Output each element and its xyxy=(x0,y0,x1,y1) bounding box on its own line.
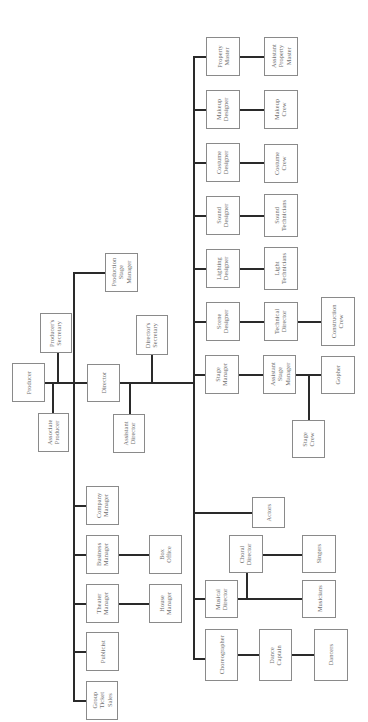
connector-line xyxy=(73,603,86,605)
org-node-costume-crew: Costume Crew xyxy=(264,144,298,183)
node-label: Company Manager xyxy=(95,493,110,518)
org-node-gopher: Gopher xyxy=(321,356,355,394)
connector-line xyxy=(238,654,259,656)
node-label: Publicist xyxy=(99,640,106,663)
node-label: House Manager xyxy=(158,592,173,615)
connector-line xyxy=(298,321,321,323)
connector-line xyxy=(193,215,206,217)
org-node-choral-director: Choral Director xyxy=(229,535,263,573)
connector-line xyxy=(193,56,206,58)
org-node-sound-technicians: Sound Technicians xyxy=(264,194,298,237)
org-node-dancers: Dancers xyxy=(314,629,348,681)
node-label: Musical Director xyxy=(214,588,229,610)
org-node-company-manager: Company Manager xyxy=(86,486,119,525)
node-label: Production Stage Manager xyxy=(110,258,132,287)
connector-line xyxy=(240,162,264,164)
node-label: Lighting Designer xyxy=(216,257,231,281)
connector-line xyxy=(240,268,264,270)
org-node-singers: Singers xyxy=(302,535,336,573)
node-label: Light Technicians xyxy=(274,253,289,284)
node-label: Technical Director xyxy=(274,309,289,334)
org-node-assistant-property-master: Assistant Property Master xyxy=(264,37,298,76)
org-node-property-master: Property Master xyxy=(206,37,240,76)
org-node-choreographer: Choreographer xyxy=(205,629,238,681)
node-label: Box Office xyxy=(158,546,173,563)
connector-line xyxy=(193,162,206,164)
org-node-construction-crew: Construction Crew xyxy=(321,297,355,346)
node-label: Gopher xyxy=(334,365,341,385)
connector-line xyxy=(292,654,314,656)
org-node-light-technicians: Light Technicians xyxy=(264,247,298,290)
connector-line xyxy=(240,321,264,323)
node-label: Makeup Designer xyxy=(216,98,231,122)
node-label: Choreographer xyxy=(218,635,225,674)
org-node-lighting-designer: Lighting Designer xyxy=(206,249,240,288)
org-node-associate-producer: Associate Producer xyxy=(38,413,69,452)
node-label: Makeup Crew xyxy=(274,99,289,120)
node-label: Construction Crew xyxy=(331,305,346,339)
org-node-dance-captain: Dance Captain xyxy=(259,629,292,681)
connector-line xyxy=(193,268,206,270)
org-node-producer: Producer xyxy=(12,363,45,402)
connector-line xyxy=(193,56,195,660)
connector-line xyxy=(120,382,194,384)
connector-line xyxy=(240,56,264,58)
org-node-directors-secretary: Director's Secretary xyxy=(136,315,168,355)
org-node-production-stage-manager: Production Stage Manager xyxy=(105,253,138,292)
connector-line xyxy=(73,700,86,702)
node-label: Producer's Secretary xyxy=(49,319,64,346)
node-label: Associate Producer xyxy=(46,420,61,445)
org-node-assistant-stage-manager: Assistant Stage Manager xyxy=(263,355,296,394)
node-label: Stage Crew xyxy=(301,432,316,447)
connector-line xyxy=(193,512,252,514)
node-label: Costume Crew xyxy=(274,152,289,175)
org-node-scene-designer: Scene Designer xyxy=(206,302,240,341)
node-label: Producer xyxy=(25,371,32,395)
org-node-makeup-crew: Makeup Crew xyxy=(264,90,298,129)
node-label: Sound Technicians xyxy=(274,200,289,231)
node-label: Assistant Director xyxy=(122,422,137,446)
connector-line xyxy=(119,554,149,556)
connector-line xyxy=(263,554,302,556)
org-node-producers-secretary: Producer's Secretary xyxy=(40,313,72,353)
node-label: Stage Manager xyxy=(215,363,230,386)
node-label: Dance Captain xyxy=(268,645,283,665)
node-label: Musicians xyxy=(315,586,322,613)
org-node-makeup-designer: Makeup Designer xyxy=(206,90,240,129)
connector-line xyxy=(193,658,205,660)
node-label: Scene Designer xyxy=(216,310,231,334)
org-node-technical-director: Technical Director xyxy=(264,302,298,341)
org-node-box-office: Box Office xyxy=(149,535,182,574)
connector-line xyxy=(193,109,206,111)
node-label: Dancers xyxy=(327,644,334,665)
connector-line xyxy=(246,573,248,599)
node-label: Actors xyxy=(265,504,272,521)
org-node-costume-designer: Costume Designer xyxy=(206,143,240,182)
connector-line xyxy=(239,374,263,376)
connector-line xyxy=(308,375,310,420)
node-label: Business Manager xyxy=(95,543,110,566)
node-label: Property Master xyxy=(216,45,231,68)
org-node-musical-director: Musical Director xyxy=(205,580,238,618)
org-node-group-ticket-sales: Group Ticket Sales xyxy=(86,681,118,720)
org-node-musicians: Musicians xyxy=(302,580,336,618)
connector-line xyxy=(129,383,131,414)
node-label: Costume Designer xyxy=(216,151,231,175)
connector-line xyxy=(73,272,105,274)
connector-line xyxy=(240,109,264,111)
theatre-org-chart: ProducerProducer's SecretaryAssociate Pr… xyxy=(0,0,368,722)
org-node-house-manager: House Manager xyxy=(149,584,182,623)
org-node-theater-manager: Theater Manager xyxy=(86,584,119,623)
org-node-actors: Actors xyxy=(252,497,285,528)
node-label: Sound Designer xyxy=(216,204,231,228)
connector-line xyxy=(73,505,86,507)
org-node-stage-manager: Stage Manager xyxy=(205,355,239,394)
connector-line xyxy=(57,353,59,383)
connector-line xyxy=(240,215,264,217)
org-node-assistant-director: Assistant Director xyxy=(113,414,145,453)
node-label: Group Ticket Sales xyxy=(91,692,113,709)
connector-line xyxy=(193,598,205,600)
org-node-publicist: Publicist xyxy=(86,632,119,671)
node-label: Director's Secretary xyxy=(145,322,160,348)
node-label: Assistant Stage Manager xyxy=(268,363,290,387)
